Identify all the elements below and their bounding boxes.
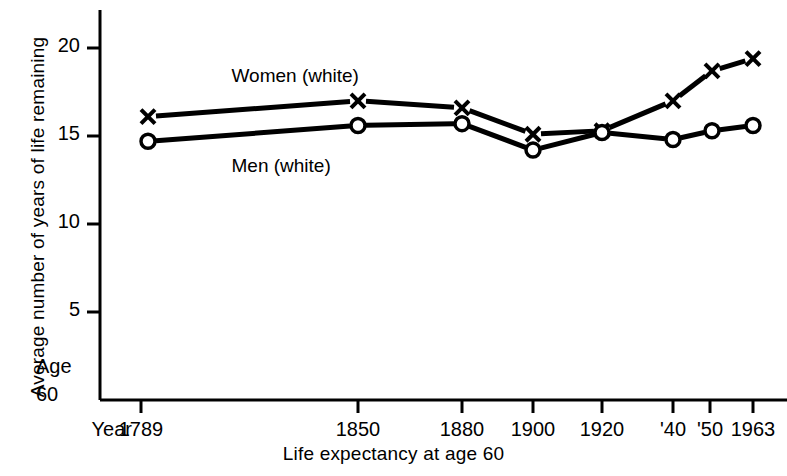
series-segment bbox=[720, 126, 745, 129]
x-axis-prefix-label: Year bbox=[62, 418, 132, 441]
data-point-marker-circle bbox=[746, 118, 760, 132]
series-segment bbox=[541, 134, 594, 148]
series-segment bbox=[609, 104, 665, 128]
x-axis-title: Life expectancy at age 60 bbox=[0, 443, 787, 465]
series-segment bbox=[541, 131, 594, 134]
y-axis-origin-label-age: Age bbox=[36, 355, 72, 378]
x-axis-tick-label: 1850 bbox=[318, 418, 398, 441]
y-axis-tick-label: 15 bbox=[20, 122, 80, 145]
x-axis-tick-label: 1963 bbox=[713, 418, 787, 441]
x-axis-tick-label: 1880 bbox=[422, 418, 502, 441]
x-axis-tick-label: 1920 bbox=[562, 418, 642, 441]
data-point-marker-circle bbox=[351, 118, 365, 132]
series-segment bbox=[610, 133, 665, 138]
y-axis-tick-label: 10 bbox=[20, 210, 80, 233]
series-segment bbox=[156, 101, 350, 116]
y-axis-tick-label: 20 bbox=[20, 34, 80, 57]
series-segment bbox=[681, 132, 704, 137]
data-point-marker-circle bbox=[141, 134, 155, 148]
series-label-women: Women (white) bbox=[232, 65, 359, 87]
series-segment bbox=[366, 101, 454, 107]
data-point-marker-circle bbox=[595, 125, 609, 139]
chart-figure: Average number of years of life remainin… bbox=[0, 0, 787, 476]
data-point-marker-circle bbox=[666, 133, 680, 147]
y-axis-tick-label: 5 bbox=[20, 298, 80, 321]
series-segment bbox=[156, 126, 350, 141]
series-segment bbox=[720, 61, 746, 69]
data-point-marker-circle bbox=[526, 143, 540, 157]
axes bbox=[87, 10, 787, 413]
series-label-men: Men (white) bbox=[232, 155, 331, 177]
series-segment bbox=[366, 124, 454, 125]
x-axis-tick-label: 1900 bbox=[493, 418, 573, 441]
y-axis-origin-label-60: 60 bbox=[36, 383, 58, 406]
series-segment bbox=[679, 76, 705, 96]
data-point-marker-circle bbox=[455, 117, 469, 131]
line-chart-plot bbox=[0, 0, 787, 476]
data-point-marker-circle bbox=[705, 124, 719, 138]
